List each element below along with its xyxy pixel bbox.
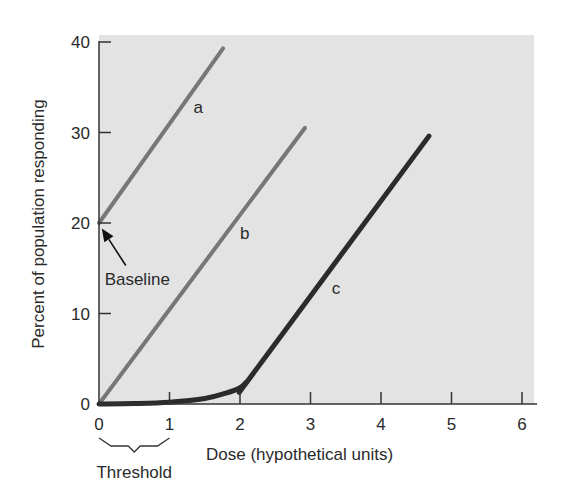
y-tick-label: 20 (71, 214, 90, 233)
x-tick-label: 5 (447, 415, 456, 434)
x-axis-title: Dose (hypothetical units) (206, 445, 393, 464)
series-label-a: a (193, 98, 203, 117)
y-tick-label: 10 (71, 305, 90, 324)
x-tick-label: 1 (165, 415, 174, 434)
series-label-c: c (332, 279, 341, 298)
x-tick-label: 0 (94, 415, 103, 434)
threshold-label: Threshold (96, 463, 172, 482)
x-tick-label: 4 (376, 415, 385, 434)
y-tick-label: 30 (71, 124, 90, 143)
threshold-annotation: Threshold (96, 438, 172, 482)
y-tick-label: 40 (71, 33, 90, 52)
baseline-label: Baseline (105, 270, 170, 289)
y-tick-label: 0 (81, 395, 90, 414)
x-tick-label: 6 (517, 415, 526, 434)
dose-response-chart: 010203040 0123456 abc Percent of populat… (0, 0, 565, 497)
brace-icon (99, 438, 170, 452)
x-tick-label: 3 (306, 415, 315, 434)
x-tick-label: 2 (235, 415, 244, 434)
series-label-b: b (240, 224, 249, 243)
plot-area-background (99, 35, 534, 404)
y-axis-title: Percent of population responding (29, 99, 48, 349)
